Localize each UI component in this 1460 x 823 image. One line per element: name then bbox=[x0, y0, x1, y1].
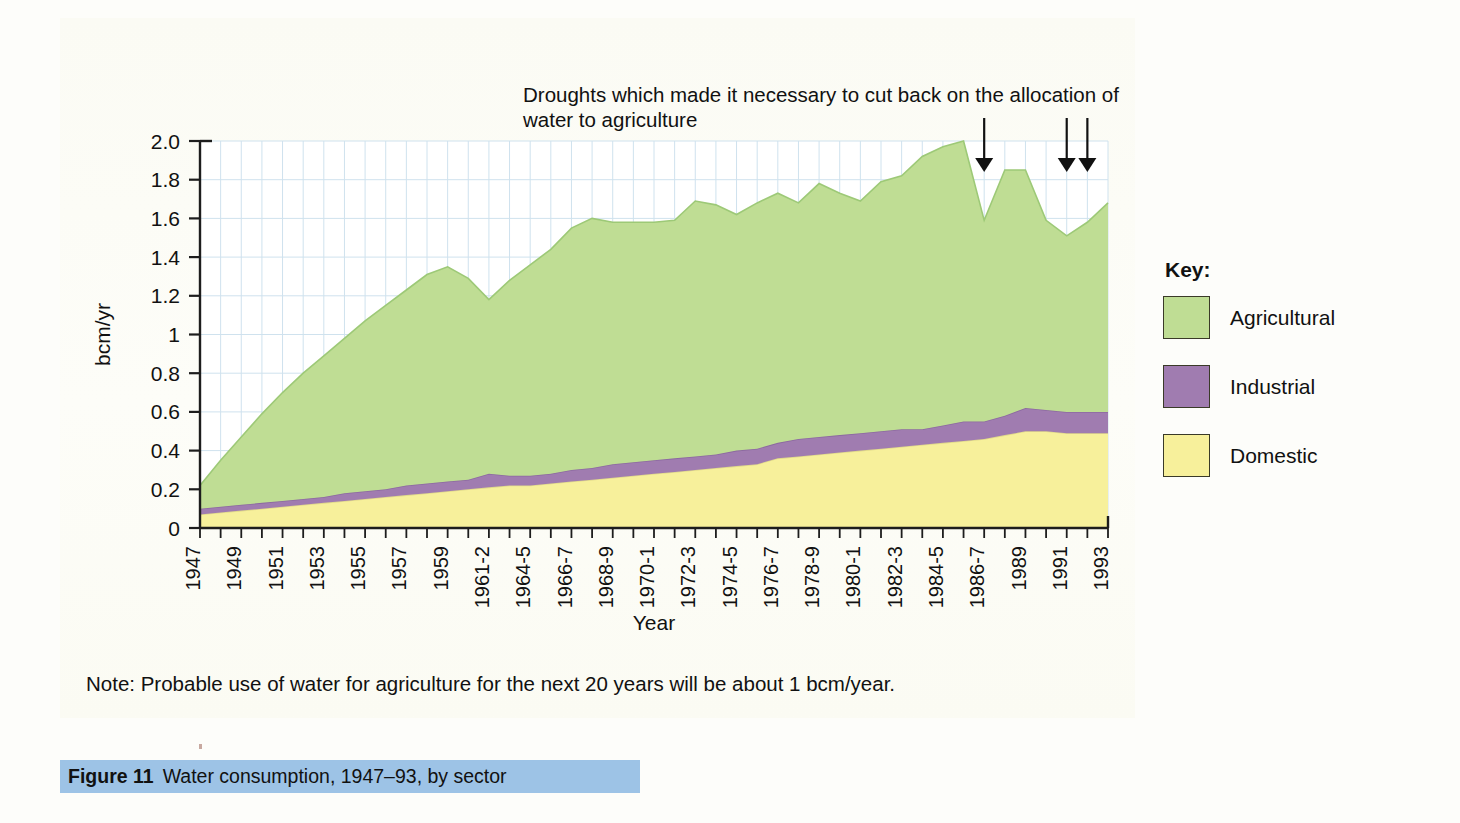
x-tick-label: 1978-9 bbox=[801, 546, 823, 608]
x-tick-label: 1968-9 bbox=[595, 546, 617, 608]
legend-item-industrial: Industrial bbox=[1163, 365, 1443, 408]
y-tick-label: 1.2 bbox=[151, 284, 180, 307]
y-tick-label: 1.4 bbox=[151, 246, 181, 269]
legend-item-domestic: Domestic bbox=[1163, 434, 1443, 477]
x-tick-label: 1970-1 bbox=[636, 546, 658, 608]
y-tick-label: 0.4 bbox=[151, 439, 181, 462]
chart-area: 00.20.40.60.811.21.41.61.82.019471949195… bbox=[0, 0, 1160, 660]
x-axis-ticks: 19471949195119531955195719591961-21964-5… bbox=[182, 528, 1112, 608]
y-tick-label: 0.2 bbox=[151, 478, 180, 501]
x-tick-label: 1974-5 bbox=[719, 546, 741, 608]
x-tick-label: 1951 bbox=[265, 546, 287, 591]
x-tick-label: 1993 bbox=[1090, 546, 1112, 591]
y-tick-label: 0.6 bbox=[151, 400, 180, 423]
x-tick-label: 1953 bbox=[306, 546, 328, 591]
figure-caption-text: Water consumption, 1947–93, by sector bbox=[163, 765, 507, 788]
x-tick-label: 1964-5 bbox=[512, 546, 534, 608]
x-tick-label: 1982-3 bbox=[884, 546, 906, 608]
figure-page: Droughts which made it necessary to cut … bbox=[0, 0, 1460, 823]
legend-swatch-agricultural bbox=[1163, 296, 1210, 339]
stacked-area-chart: 00.20.40.60.811.21.41.61.82.019471949195… bbox=[0, 0, 1160, 660]
y-tick-label: 1.8 bbox=[151, 168, 180, 191]
legend-label-industrial: Industrial bbox=[1230, 375, 1315, 399]
y-tick-label: 1.6 bbox=[151, 207, 180, 230]
figure-number: Figure 11 bbox=[68, 765, 154, 788]
x-tick-label: 1955 bbox=[347, 546, 369, 591]
x-axis-title: Year bbox=[633, 611, 675, 634]
x-tick-label: 1949 bbox=[223, 546, 245, 591]
legend: Key: Agricultural Industrial Domestic bbox=[1163, 258, 1443, 503]
legend-label-domestic: Domestic bbox=[1230, 444, 1318, 468]
x-tick-label: 1957 bbox=[388, 546, 410, 591]
y-axis-ticks: 00.20.40.60.811.21.41.61.82.0 bbox=[151, 130, 200, 540]
legend-item-agricultural: Agricultural bbox=[1163, 296, 1443, 339]
y-tick-label: 2.0 bbox=[151, 130, 180, 153]
y-tick-label: 1 bbox=[168, 323, 180, 346]
x-tick-label: 1959 bbox=[430, 546, 452, 591]
x-tick-label: 1989 bbox=[1008, 546, 1030, 591]
paper-speck bbox=[199, 744, 202, 749]
x-tick-label: 1991 bbox=[1049, 546, 1071, 591]
x-tick-label: 1961-2 bbox=[471, 546, 493, 608]
legend-label-agricultural: Agricultural bbox=[1230, 306, 1335, 330]
x-tick-label: 1980-1 bbox=[842, 546, 864, 608]
x-tick-label: 1966-7 bbox=[554, 546, 576, 608]
legend-title: Key: bbox=[1165, 258, 1443, 282]
legend-swatch-domestic bbox=[1163, 434, 1210, 477]
legend-swatch-industrial bbox=[1163, 365, 1210, 408]
x-tick-label: 1976-7 bbox=[760, 546, 782, 608]
x-tick-label: 1947 bbox=[182, 546, 204, 591]
y-axis-title: bcm/yr bbox=[91, 303, 114, 366]
figure-caption: Figure 11 Water consumption, 1947–93, by… bbox=[60, 760, 640, 793]
y-tick-label: 0 bbox=[168, 517, 180, 540]
y-tick-label: 0.8 bbox=[151, 362, 180, 385]
x-tick-label: 1972-3 bbox=[677, 546, 699, 608]
figure-note: Note: Probable use of water for agricult… bbox=[86, 672, 895, 696]
x-tick-label: 1986-7 bbox=[966, 546, 988, 608]
x-tick-label: 1984-5 bbox=[925, 546, 947, 608]
